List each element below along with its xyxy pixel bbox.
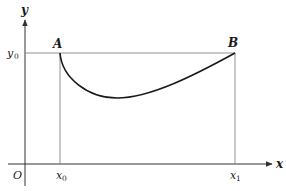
x0-tick-label: x 0: [56, 169, 67, 183]
x0-subscript: 0: [62, 174, 67, 183]
y0-tick-label: y 0: [6, 47, 19, 61]
point-a-label: A: [52, 37, 62, 51]
y0-base: y: [6, 47, 14, 60]
y-axis-label: y: [20, 3, 29, 17]
origin-label: O: [13, 169, 22, 182]
x-axis-label: x: [275, 157, 284, 171]
x1-subscript: 1: [236, 174, 241, 183]
diagram-canvas: A B y x O y 0 x 0 x 1: [0, 0, 286, 191]
y0-subscript: 0: [14, 52, 19, 61]
curve-a-to-b: [60, 53, 235, 98]
point-b-label: B: [227, 36, 238, 50]
x1-tick-label: x 1: [230, 169, 241, 183]
